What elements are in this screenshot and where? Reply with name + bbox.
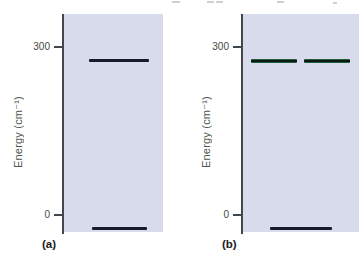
- y-axis-label-b: Energy (cm⁻¹): [196, 74, 214, 190]
- tick-label-300-a: 300: [23, 41, 50, 53]
- energy-level-300-b-segment-2: [304, 59, 350, 63]
- energy-level-0-a: [92, 227, 147, 230]
- tick-mark-300-b: [233, 46, 242, 48]
- print-artifact: [216, 1, 223, 3]
- panel-b-plot-area: [243, 14, 359, 232]
- y-axis-label-a: Energy (cm⁻¹): [8, 74, 26, 190]
- energy-level-300-b-segment-1: [251, 59, 297, 63]
- print-artifact: [333, 2, 337, 4]
- tick-mark-0-b: [233, 214, 242, 216]
- tick-label-0-a: 0: [23, 209, 50, 221]
- print-artifact: [277, 1, 284, 3]
- panel-caption-a: (a): [42, 238, 56, 250]
- energy-level-300-a: [89, 59, 149, 62]
- energy-level-figure: Energy (cm⁻¹) 300 0 (a) Energy (cm⁻¹) 30…: [0, 0, 359, 267]
- print-artifact: [207, 1, 214, 3]
- print-artifact: [172, 1, 180, 3]
- panel-a-plot-area: [64, 14, 163, 232]
- tick-mark-300-a: [54, 46, 63, 48]
- tick-mark-0-a: [54, 214, 63, 216]
- tick-label-0-b: 0: [202, 209, 229, 221]
- energy-level-0-b: [270, 227, 332, 230]
- tick-label-300-b: 300: [202, 41, 229, 53]
- panel-caption-b: (b): [222, 238, 237, 250]
